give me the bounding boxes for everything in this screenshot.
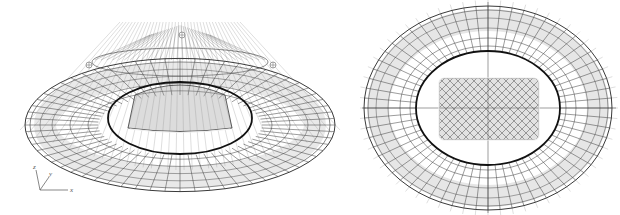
perspective-mesh-group [20,22,340,192]
perspective-wireframe-drawing: xyz [0,0,360,215]
axis-label-z: z [32,163,36,171]
plan-wireframe-drawing [360,0,620,215]
plan-view-panel [360,0,620,215]
central-lattice [375,78,613,140]
central-lattice [128,85,232,132]
axis-label-x: x [69,186,74,194]
axis-label-y: y [48,170,53,178]
axis-triad-icon: xyz [32,163,74,194]
perspective-view-panel: xyz [0,0,360,215]
